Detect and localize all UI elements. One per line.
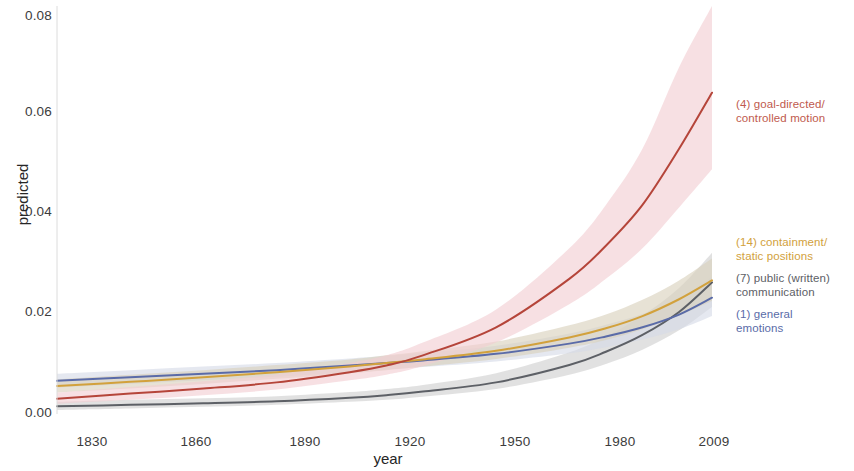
legend-item-general-emotions: (1) general emotions	[736, 308, 854, 335]
x-tick-label: 1950	[500, 434, 531, 449]
plot-area	[0, 0, 854, 471]
x-tick-label: 1920	[395, 434, 426, 449]
legend-item-public-written-communication: (7) public (written) communication	[736, 272, 854, 299]
legend-item-goal-directed-controlled-motion: (4) goal-directed/ controlled motion	[736, 98, 854, 125]
chart-figure: 0.08 0.06 0.04 0.02 0.00 predicted 1830 …	[0, 0, 854, 471]
x-tick-label: 1890	[290, 434, 321, 449]
x-tick-label: 1860	[181, 434, 212, 449]
x-tick-label: 1830	[77, 434, 108, 449]
y-tick-label: 0.06	[6, 104, 52, 119]
x-tick-label: 2009	[699, 434, 730, 449]
y-tick-label: 0.08	[6, 8, 52, 23]
y-tick-label: 0.02	[6, 304, 52, 319]
y-axis-title: predicted	[14, 140, 31, 250]
y-tick-label: 0.00	[6, 405, 52, 420]
x-axis-title: year	[328, 450, 448, 467]
x-tick-label: 1980	[605, 434, 636, 449]
legend-item-containment-static-positions: (14) containment/ static positions	[736, 236, 854, 263]
